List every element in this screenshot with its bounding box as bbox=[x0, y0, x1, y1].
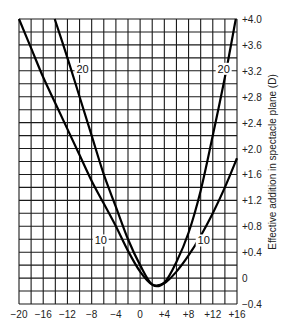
x-tick-label: +16 bbox=[229, 309, 246, 320]
x-tick-label: −16 bbox=[35, 309, 52, 320]
y-tick-label: +1.2 bbox=[242, 195, 262, 206]
y-tick-label: +3.2 bbox=[242, 66, 262, 77]
curve-label-20: 20 bbox=[76, 63, 88, 75]
x-tick-label: −20 bbox=[11, 309, 28, 320]
y-tick-label: +4.0 bbox=[242, 14, 262, 25]
y-tick-label: +1.6 bbox=[242, 169, 262, 180]
y-tick-label: +2.4 bbox=[242, 118, 262, 129]
y-tick-label: +2.8 bbox=[242, 92, 262, 103]
x-axis-ticks: −20−16−12−8−40+4+8+12+16 bbox=[11, 309, 246, 320]
y-axis-label: Effective addition in spectacle plane (D… bbox=[267, 74, 278, 249]
chart: 10102020 −20−16−12−8−40+4+8+12+16 +4.0+3… bbox=[0, 0, 289, 334]
chart-grid bbox=[19, 19, 237, 304]
curve-label-10: 10 bbox=[198, 234, 210, 246]
y-axis-ticks: +4.0+3.6+3.2+2.8+2.4+2.0+1.6+1.2+0.8+0.4… bbox=[242, 14, 262, 310]
y-tick-label: 0 bbox=[242, 273, 248, 284]
x-tick-label: −8 bbox=[86, 309, 98, 320]
curve-label-10: 10 bbox=[95, 234, 107, 246]
x-tick-label: 0 bbox=[137, 309, 143, 320]
y-tick-label: +0.8 bbox=[242, 221, 262, 232]
x-tick-label: −4 bbox=[110, 309, 122, 320]
x-tick-label: −12 bbox=[59, 309, 76, 320]
curve-label-20: 20 bbox=[218, 63, 230, 75]
y-tick-label: −0.4 bbox=[242, 299, 262, 310]
x-tick-label: +4 bbox=[159, 309, 171, 320]
x-tick-label: +12 bbox=[204, 309, 221, 320]
x-tick-label: +8 bbox=[183, 309, 195, 320]
y-tick-label: +3.6 bbox=[242, 40, 262, 51]
y-tick-label: +2.0 bbox=[242, 144, 262, 155]
y-tick-label: +0.4 bbox=[242, 247, 262, 258]
